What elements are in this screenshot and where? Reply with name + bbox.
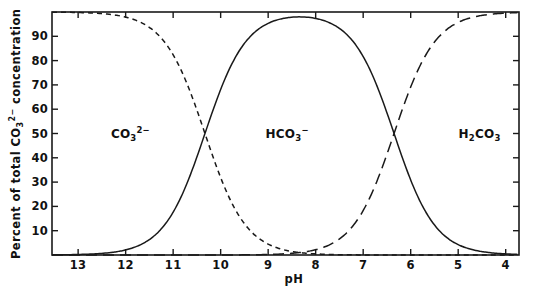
series-label-carbonic-acid: H2CO3 [459, 127, 501, 141]
plot-area [0, 0, 540, 294]
carbonate-speciation-chart: Percent of total CO32− concentration 102… [0, 0, 540, 294]
series-label-carbonate: CO32− [111, 127, 150, 141]
series-label-bicarbonate: HCO3− [266, 127, 309, 141]
